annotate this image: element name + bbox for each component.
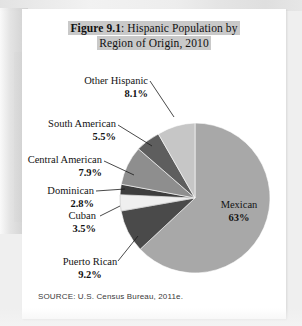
pie-slices <box>120 123 270 273</box>
label-central-american: Central American 7.9% <box>18 154 102 179</box>
label-other-hispanic-name: Other Hispanic <box>84 75 148 86</box>
label-cuban-pct: 3.5% <box>32 223 96 236</box>
label-mexican-pct: 63% <box>208 212 270 225</box>
label-puerto-rican-pct: 9.2% <box>46 269 134 282</box>
figure-screenshot: Figure 9.1: Hispanic Population by Regio… <box>0 0 302 326</box>
leader-line-other-hispanic <box>150 81 174 117</box>
label-central-american-pct: 7.9% <box>18 167 102 180</box>
label-other-hispanic-pct: 8.1% <box>22 88 148 101</box>
scan-bottom-fade <box>0 308 302 326</box>
label-mexican-name: Mexican <box>221 199 258 210</box>
label-puerto-rican-name: Puerto Rican <box>63 256 118 267</box>
label-cuban: Cuban 3.5% <box>32 210 96 235</box>
label-south-american-pct: 5.5% <box>22 131 116 144</box>
figure-card: Figure 9.1: Hispanic Population by Regio… <box>22 9 286 319</box>
leader-line-cuban <box>100 206 120 216</box>
label-dominican-name: Dominican <box>47 185 94 196</box>
label-cuban-name: Cuban <box>69 210 96 221</box>
label-dominican: Dominican 2.8% <box>22 185 94 210</box>
leader-line-south-american <box>118 125 152 146</box>
pie-chart: Other Hispanic 8.1% South American 5.5% … <box>22 9 286 319</box>
label-mexican: Mexican 63% <box>208 199 270 224</box>
label-dominican-pct: 2.8% <box>22 198 94 211</box>
label-puerto-rican: Puerto Rican 9.2% <box>46 256 134 281</box>
label-other-hispanic: Other Hispanic 8.1% <box>22 75 148 100</box>
label-central-american-name: Central American <box>28 154 102 165</box>
figure-source: SOURCE: U.S. Census Bureau, 2011e. <box>38 292 183 301</box>
label-south-american: South American 5.5% <box>22 118 116 143</box>
label-south-american-name: South American <box>48 118 116 129</box>
